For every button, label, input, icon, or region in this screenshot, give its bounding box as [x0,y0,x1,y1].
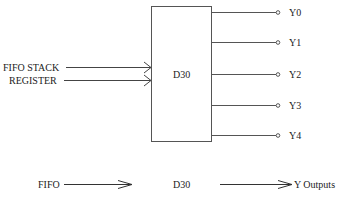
output-line-y0 [211,11,280,15]
flow-source-label: FIFO [38,179,60,190]
input-arrow-1 [66,62,151,73]
output-label-y4: Y4 [289,130,301,141]
output-line-y1 [211,41,280,45]
flow-arrow-1 [64,181,132,189]
output-label-y2: Y2 [289,69,301,80]
output-label-y1: Y1 [289,37,301,48]
flow-middle-label: D30 [173,179,190,190]
output-label-y3: Y3 [289,100,301,111]
input-arrow-2 [64,75,151,86]
input-label-line2: REGISTER [9,75,57,86]
output-line-y2 [211,73,280,77]
output-line-y3 [211,104,280,108]
flow-target-label: Y Outputs [294,179,335,190]
block-label: D30 [173,69,190,80]
input-label-line1: FIFO STACK [3,62,59,73]
flow-arrow-2 [220,181,292,189]
output-label-y0: Y0 [289,7,301,18]
output-line-y4 [211,134,280,138]
